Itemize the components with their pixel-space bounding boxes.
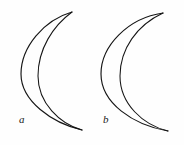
figure-canvas: a b [0,0,184,145]
figure-label-a: a [19,114,25,125]
crescent-diagram [0,0,184,145]
crescent-shape-b [101,13,168,131]
crescent-shape-a [21,12,82,130]
figure-label-b: b [103,114,109,125]
crescent-b-outer-arc [101,13,168,131]
crescent-b-inner-arc [120,13,168,131]
crescent-a-outer-arc [21,12,82,130]
